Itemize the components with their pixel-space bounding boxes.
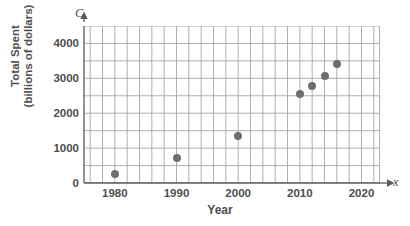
data-point bbox=[333, 60, 341, 68]
y-axis-variable-label: C bbox=[75, 6, 83, 21]
y-tick-label: 1000 bbox=[43, 142, 79, 154]
y-tick-label: 2000 bbox=[43, 107, 79, 119]
y-axis-title: Total Spent (billions of dollars) bbox=[2, 0, 42, 136]
data-point bbox=[296, 90, 304, 98]
data-point bbox=[321, 72, 329, 80]
x-axis-variable-label: x bbox=[393, 175, 399, 190]
x-tick-label: 2010 bbox=[278, 187, 322, 199]
x-axis-title: Year bbox=[160, 203, 280, 217]
x-tick-label: 1990 bbox=[155, 187, 199, 199]
x-tick-label: 1980 bbox=[93, 187, 137, 199]
gridlines bbox=[84, 26, 380, 183]
scatter-chart-figure: Total Spent (billions of dollars) C x 01… bbox=[0, 0, 410, 226]
y-tick-label: 4000 bbox=[43, 37, 79, 49]
y-axis-title-line-1: Total Spent bbox=[9, 25, 22, 87]
x-tick-label: 2000 bbox=[216, 187, 260, 199]
plot-area bbox=[84, 26, 380, 183]
data-point bbox=[173, 154, 181, 162]
data-point bbox=[234, 132, 242, 140]
y-tick-label: 3000 bbox=[43, 72, 79, 84]
y-tick-label: 0 bbox=[43, 177, 79, 189]
y-axis-title-line-2: (billions of dollars) bbox=[22, 5, 35, 108]
x-tick-label: 2020 bbox=[340, 187, 384, 199]
